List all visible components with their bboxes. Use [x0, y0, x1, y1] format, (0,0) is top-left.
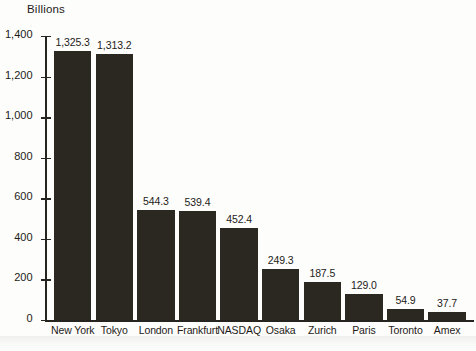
- bar-value-label: 452.4: [226, 213, 252, 225]
- bar-value-label: 187.5: [309, 267, 335, 279]
- chart-title: Billions: [27, 3, 65, 15]
- bar[interactable]: [345, 294, 382, 320]
- bar-group[interactable]: 249.3Osaka: [262, 36, 299, 320]
- bar-group[interactable]: 1,313.2Tokyo: [96, 36, 133, 320]
- y-axis-tick: 400: [41, 239, 51, 240]
- x-axis-category-label: Toronto: [388, 324, 422, 336]
- bar[interactable]: [137, 210, 174, 320]
- y-axis-tick-label: 400: [14, 231, 32, 243]
- bar[interactable]: [179, 211, 216, 320]
- y-axis-tick: 800: [41, 158, 51, 159]
- x-axis-line: [45, 320, 474, 322]
- bar[interactable]: [428, 312, 465, 320]
- bar-group[interactable]: 544.3London: [137, 36, 174, 320]
- bar-group[interactable]: 187.5Zurich: [304, 36, 341, 320]
- x-axis-category-label: London: [139, 324, 173, 336]
- y-axis-tick-label: 1,200: [5, 69, 33, 81]
- y-axis-tick: 200: [41, 279, 51, 280]
- y-axis-tick: 1,000: [41, 117, 51, 118]
- bar-group[interactable]: 452.4NASDAQ: [220, 36, 257, 320]
- bar-group[interactable]: 54.9Toronto: [387, 36, 424, 320]
- bar-value-label: 129.0: [351, 279, 377, 291]
- y-axis-tick: 1,400: [41, 36, 51, 37]
- bar-value-label: 1,325.3: [56, 36, 90, 48]
- bar-value-label: 54.9: [395, 294, 415, 306]
- chart-page: Billions 02004006008001,0001,2001,400 1,…: [0, 0, 476, 351]
- bar[interactable]: [262, 269, 299, 320]
- y-axis-tick-label: 0: [26, 312, 32, 324]
- bar[interactable]: [304, 282, 341, 320]
- y-axis-tick-label: 200: [14, 271, 32, 283]
- bar-group[interactable]: 129.0Paris: [345, 36, 382, 320]
- bar[interactable]: [96, 54, 133, 320]
- bar-value-label: 249.3: [268, 254, 294, 266]
- bar-group[interactable]: 37.7Amex: [428, 36, 465, 320]
- x-axis-category-label: Osaka: [266, 324, 296, 336]
- scan-artifact: [0, 336, 476, 351]
- x-axis-category-label: New York: [51, 324, 95, 336]
- x-axis-category-label: Paris: [352, 324, 375, 336]
- bar[interactable]: [54, 51, 91, 320]
- y-axis-tick-label: 1,400: [5, 28, 33, 40]
- bar[interactable]: [220, 228, 257, 320]
- x-axis-category-label: Zurich: [308, 324, 337, 336]
- bar-value-label: 539.4: [185, 196, 211, 208]
- y-axis-tick: 600: [41, 198, 51, 199]
- y-axis-tick-label: 600: [14, 190, 32, 202]
- bar-value-label: 1,313.2: [97, 39, 131, 51]
- x-axis-category-label: Frankfurt: [177, 324, 218, 336]
- x-axis-category-label: Tokyo: [101, 324, 128, 336]
- plot-area: 02004006008001,0001,2001,400 1,325.3New …: [45, 36, 476, 320]
- bar-group[interactable]: 1,325.3New York: [54, 36, 91, 320]
- y-axis-tick: 0: [41, 320, 51, 321]
- bar-value-label: 37.7: [437, 297, 457, 309]
- x-axis-category-label: Amex: [434, 324, 460, 336]
- y-axis-tick-label: 1,000: [5, 109, 33, 121]
- y-axis-tick: 1,200: [41, 77, 51, 78]
- x-axis-category-label: NASDAQ: [217, 324, 261, 336]
- bar-group[interactable]: 539.4Frankfurt: [179, 36, 216, 320]
- bar[interactable]: [387, 309, 424, 320]
- bar-value-label: 544.3: [143, 195, 169, 207]
- y-axis-tick-label: 800: [14, 150, 32, 162]
- y-axis-line: [45, 36, 47, 320]
